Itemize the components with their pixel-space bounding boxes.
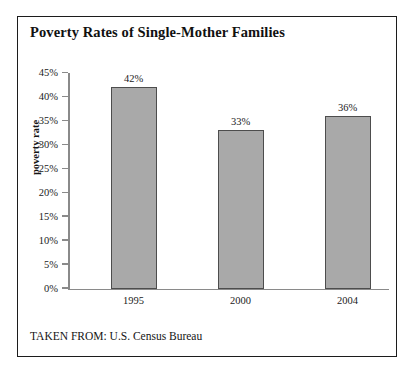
y-tick: 20%	[62, 192, 68, 193]
bar-2000: 33%2000	[218, 130, 264, 288]
chart-title: Poverty Rates of Single-Mother Families	[30, 24, 285, 41]
bar-2004: 36%2004	[325, 116, 371, 288]
bar-value-label: 33%	[231, 116, 250, 127]
x-axis-line	[68, 289, 389, 291]
y-tick: 35%	[62, 120, 68, 121]
plot-area: 0%5%10%15%20%25%30%35%40%45% 42%199533%2…	[68, 73, 389, 290]
y-tick: 40%	[62, 96, 68, 97]
poverty-rate-figure: Poverty Rates of Single-Mother Families …	[0, 0, 413, 372]
y-tick-label: 45%	[39, 67, 58, 78]
bar-value-label: 42%	[124, 73, 143, 84]
y-tick-label: 35%	[39, 115, 58, 126]
y-tick-label: 30%	[39, 139, 58, 150]
y-tick-label: 5%	[44, 258, 58, 269]
x-tick-label: 2000	[230, 295, 251, 306]
bar-1995: 42%1995	[111, 87, 157, 288]
y-tick-label: 40%	[39, 91, 58, 102]
y-tick: 25%	[62, 168, 68, 169]
y-tick: 0%	[62, 287, 68, 288]
y-tick: 10%	[62, 239, 68, 240]
chart-frame: Poverty Rates of Single-Mother Families …	[17, 16, 397, 357]
y-tick: 45%	[62, 72, 68, 73]
y-tick-label: 10%	[39, 235, 58, 246]
y-tick-label: 20%	[39, 187, 58, 198]
y-axis-line	[68, 73, 70, 290]
y-tick-label: 15%	[39, 211, 58, 222]
y-tick-label: 0%	[44, 282, 58, 293]
y-tick: 5%	[62, 263, 68, 264]
source-note: TAKEN FROM: U.S. Census Bureau	[30, 330, 202, 342]
y-tick: 15%	[62, 215, 68, 216]
x-tick-label: 1995	[123, 295, 144, 306]
y-tick: 30%	[62, 144, 68, 145]
x-tick-label: 2004	[337, 295, 358, 306]
bar-value-label: 36%	[338, 102, 357, 113]
y-tick-label: 25%	[39, 163, 58, 174]
